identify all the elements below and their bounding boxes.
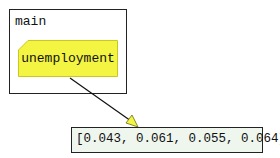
value-text: [0.043, 0.061, 0.055, 0.064]: [76, 132, 280, 146]
value-box: [0.043, 0.061, 0.055, 0.064]: [71, 127, 263, 153]
